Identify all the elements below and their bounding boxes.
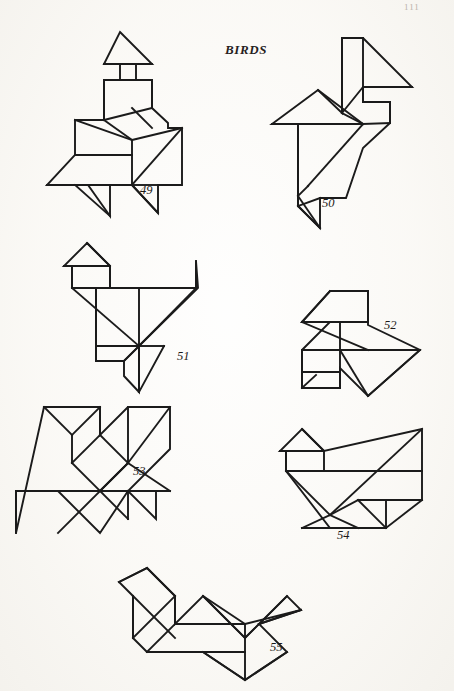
tangram-figure-54 [280,429,422,528]
figure-54-segment-13 [330,515,358,528]
figure-49-segment-8 [132,128,182,140]
figure-50-segment-2 [342,87,363,113]
tangram-figure-55 [119,568,301,680]
figure-54-segment-1 [302,429,324,451]
figure-53-segment-16 [100,491,128,519]
figure-number-52: 52 [384,318,397,333]
figure-53-segment-5 [100,435,128,463]
figure-51-segment-14 [124,346,139,361]
figure-49-segment-13 [75,185,110,216]
tangram-figure-49 [47,32,182,216]
figure-51-segment-7 [72,288,139,346]
tangram-figure-53 [16,407,170,533]
figure-53-segment-19 [100,463,128,491]
figure-52-segment-13 [302,375,316,388]
figure-54-segment-6 [330,429,422,515]
figure-50-segment-14 [298,196,320,228]
figure-49-segment-10 [132,128,182,185]
figure-49-segment-4 [104,108,152,120]
figure-55-segment-10 [203,596,245,624]
book-page: 111 BIRDS 49 50 51 52 53 54 55 [0,0,454,691]
figure-number-55: 55 [270,640,283,655]
figure-55-segment-14 [245,652,287,680]
tangram-figure-50 [272,38,412,228]
figure-49-segment-7 [75,120,132,140]
figure-number-51: 51 [177,349,190,364]
figure-50-segment-12 [308,124,363,186]
figure-54-outline [280,429,422,528]
figure-52-segment-12 [368,350,420,396]
figure-55-segment-0 [119,568,147,582]
figure-52-outline [302,291,420,396]
figure-51-segment-1 [87,243,110,266]
figure-number-53: 53 [133,464,146,479]
figure-52-segment-2 [302,291,330,322]
figure-53-segment-7 [72,463,100,491]
tangram-figure-51 [64,243,198,392]
figure-51-segment-16 [139,346,164,392]
figure-53-outline [16,407,170,533]
figure-50-segment-15 [298,206,320,228]
figure-number-50: 50 [322,196,335,211]
figure-52-segment-4 [302,322,368,350]
figure-53-segment-1 [44,407,72,435]
tangram-figure-52 [302,291,420,396]
figure-55-segment-1 [147,568,175,596]
figure-54-segment-5 [286,471,330,515]
figure-51-segment-11 [139,288,196,346]
figure-53-segment-4 [72,435,100,463]
figure-55-segment-9 [203,596,245,638]
figure-53-segment-2 [72,407,100,435]
figure-49-outline [47,32,182,216]
figure-50-segment-13 [298,186,308,196]
figure-55-segment-6 [147,624,175,652]
figure-49-segment-6 [104,120,132,140]
tangram-figures-canvas [0,0,454,691]
figure-54-segment-9 [386,500,422,528]
figure-number-54: 54 [337,528,350,543]
figure-50-segment-7 [363,123,390,124]
figure-54-segment-8 [358,500,386,528]
figure-number-49: 49 [140,183,153,198]
figure-55-segment-15 [203,652,245,680]
